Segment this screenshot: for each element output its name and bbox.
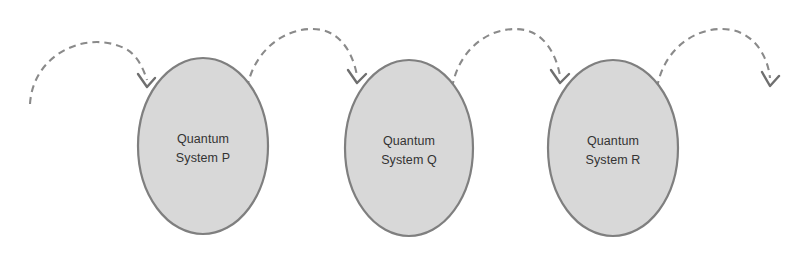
node-p-ellipse[interactable] [138, 58, 268, 234]
node-quantum-system-q[interactable]: Quantum System Q [345, 60, 473, 236]
diagram-canvas: Quantum System P Quantum System Q Quantu… [0, 0, 809, 261]
arc-q-r-path [452, 29, 560, 88]
node-p-label-line2: System P [176, 151, 230, 165]
node-quantum-system-p[interactable]: Quantum System P [138, 58, 268, 234]
arc-out-path [657, 29, 770, 88]
node-r-label-line1: Quantum [587, 134, 639, 148]
node-quantum-system-r[interactable]: Quantum System R [548, 60, 678, 236]
arc-out-arrowhead-icon [762, 72, 779, 86]
arc-p-q-path [247, 29, 357, 88]
node-r-label-line2: System R [586, 153, 641, 167]
node-q-ellipse[interactable] [345, 60, 473, 236]
connector-arc-p-q [247, 29, 366, 88]
node-q-label-line1: Quantum [383, 134, 435, 148]
node-q-label-line2: System Q [381, 153, 437, 167]
arc-in-arrowhead-icon [138, 74, 155, 87]
connector-arc-in [30, 42, 155, 104]
node-r-ellipse[interactable] [548, 60, 678, 236]
connector-arc-out [657, 29, 779, 88]
diagram-svg: Quantum System P Quantum System Q Quantu… [0, 0, 809, 261]
connector-arc-q-r [452, 29, 569, 88]
arc-in-path [30, 42, 147, 104]
node-p-label-line1: Quantum [177, 132, 229, 146]
